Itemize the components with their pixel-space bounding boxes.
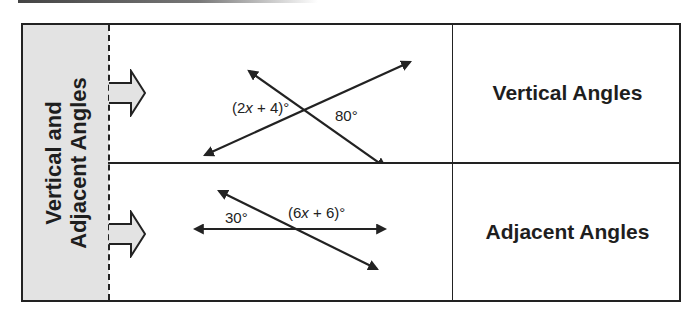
adjacent-angles-figure: 30° (6x + 6)°	[109, 164, 452, 302]
side-title: Vertical and Adjacent Angles	[41, 77, 91, 249]
angle-label-right: 80°	[335, 107, 358, 124]
angle-label-right: (6x + 6)°	[288, 204, 345, 221]
column-divider	[452, 25, 453, 300]
angle-label-left: (2x + 4)°	[232, 99, 289, 116]
line-b	[249, 71, 385, 162]
vertical-angles-figure: (2x + 4)° 80°	[109, 25, 452, 162]
angle-table: Vertical and Adjacent Angles (2x + 4)° 8…	[21, 23, 681, 302]
side-title-line2: Adjacent Angles	[66, 77, 91, 249]
top-rule	[18, 0, 318, 3]
term-vertical-angles: Vertical Angles	[454, 81, 681, 105]
term-adjacent-angles: Adjacent Angles	[454, 220, 681, 244]
angle-label-left: 30°	[225, 209, 248, 226]
side-title-line1: Vertical and	[41, 77, 66, 249]
